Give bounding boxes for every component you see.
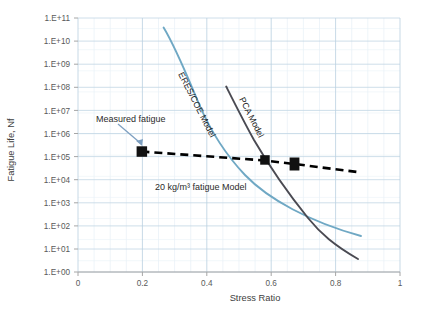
data-marker xyxy=(260,155,270,165)
y-tick-label: 1.E+02 xyxy=(44,222,71,231)
y-axis-title: Fatigue Life, Nf xyxy=(6,118,16,181)
y-tick-label: 1.E+01 xyxy=(44,245,71,254)
fatigue-life-chart: 1.E+11 1.E+10 1.E+09 1.E+08 1.E+07 1.E+0… xyxy=(0,0,422,319)
y-tick-label: 1.E+10 xyxy=(44,37,71,46)
x-axis-ticks xyxy=(78,272,400,276)
x-axis-title: Stress Ratio xyxy=(230,293,281,303)
data-marker xyxy=(137,146,148,157)
x-tick-label: 0.4 xyxy=(201,279,213,288)
y-axis-ticks xyxy=(74,18,78,272)
y-tick-label: 1.E+05 xyxy=(44,153,71,162)
y-tick-label: 1.E+03 xyxy=(44,199,71,208)
y-tick-label: 1.E+09 xyxy=(44,60,71,69)
x-tick-label: 0.6 xyxy=(266,279,278,288)
y-tick-label: 1.E+00 xyxy=(44,268,71,277)
x-tick-label: 0.2 xyxy=(137,279,149,288)
x-tick-label: 0 xyxy=(76,279,81,288)
x-tick-label: 1 xyxy=(398,279,403,288)
measured-fatigue-annotation: Measured fatigue xyxy=(96,114,166,124)
y-tick-label: 1.E+04 xyxy=(44,176,71,185)
y-tick-label: 1.E+07 xyxy=(44,107,71,116)
y-tick-label: 1.E+11 xyxy=(44,14,70,23)
y-tick-label: 1.E+06 xyxy=(44,130,71,139)
x-tick-labels: 0 0.2 0.4 0.6 0.8 1 xyxy=(76,279,403,288)
y-tick-labels: 1.E+11 1.E+10 1.E+09 1.E+08 1.E+07 1.E+0… xyxy=(44,14,71,277)
data-marker xyxy=(290,158,300,171)
x-tick-label: 0.8 xyxy=(330,279,342,288)
fatigue-model-annotation: 20 kg/m³ fatigue Model xyxy=(155,182,247,192)
chart-svg: 1.E+11 1.E+10 1.E+09 1.E+08 1.E+07 1.E+0… xyxy=(0,0,422,319)
y-tick-label: 1.E+08 xyxy=(44,83,71,92)
